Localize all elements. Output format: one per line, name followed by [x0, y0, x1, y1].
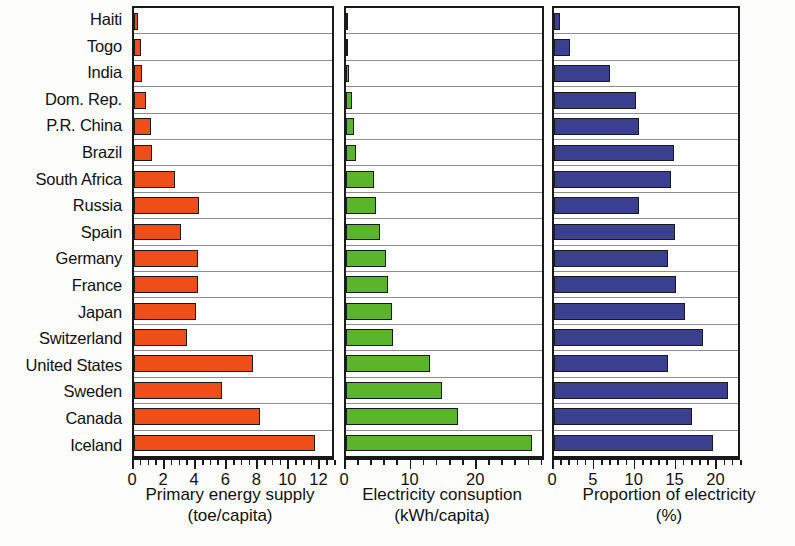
axis-tick-major [715, 460, 717, 469]
axis-tick-minor [210, 460, 212, 465]
axis-tick-minor [202, 460, 204, 465]
axis-tick-minor [724, 460, 726, 465]
axis-tick-major [318, 460, 320, 469]
axis-tick-minor [264, 460, 266, 465]
bar [134, 329, 187, 346]
axis-tick-minor [658, 460, 660, 465]
bar [134, 118, 151, 135]
axis-tick-major [593, 460, 595, 469]
axis-tick-minor [155, 460, 157, 465]
axis-tick-major [410, 460, 412, 469]
axis-tick-minor [140, 460, 142, 465]
multi-panel-bar-chart: HaitiTogoIndiaDom. Rep.P.R. ChinaBrazilS… [0, 0, 795, 546]
panel-proportion-of-electricity [552, 6, 740, 458]
bar [346, 355, 430, 372]
bars-panel-3 [554, 8, 738, 456]
axis-tick-minor [732, 460, 734, 465]
bar-row [346, 140, 542, 166]
bar-row [134, 166, 332, 192]
country-label: Iceland [0, 432, 128, 459]
bar [134, 145, 152, 162]
axis-tick-major [256, 460, 258, 469]
axis-tick-minor [370, 460, 372, 465]
axis-tick-minor [488, 460, 490, 465]
bar [346, 329, 393, 346]
panel-primary-energy-supply [132, 6, 334, 458]
bar [346, 408, 458, 425]
axis-tick-minor [303, 460, 305, 465]
bar-row [554, 430, 738, 456]
country-label: France [0, 272, 128, 299]
axis-tick-minor [650, 460, 652, 465]
axis-tick-minor [541, 460, 543, 465]
axis-tick-minor [691, 460, 693, 465]
bar [346, 65, 349, 82]
axis-tick-minor [217, 460, 219, 465]
bar [134, 435, 315, 452]
axis-tick-major [634, 460, 636, 469]
axis-tick-minor [609, 460, 611, 465]
axis-tick-minor [642, 460, 644, 465]
bar-row [346, 166, 542, 192]
bar-row [346, 377, 542, 403]
axis-tick-minor [179, 460, 181, 465]
bar [134, 382, 222, 399]
axis-tick-minor [295, 460, 297, 465]
axis-tick-minor [699, 460, 701, 465]
axis-tick-minor [383, 460, 385, 465]
country-label: India [0, 59, 128, 86]
axis-tick-minor [626, 460, 628, 465]
axis-tick-minor [249, 460, 251, 465]
bar-row [554, 272, 738, 298]
bar [346, 303, 392, 320]
axis-tick-minor [241, 460, 243, 465]
bar-row [346, 34, 542, 60]
bar-row [346, 245, 542, 271]
bar-row [554, 34, 738, 60]
bars-panel-2 [346, 8, 542, 456]
axis-title-text-1: Primary energy supply [145, 485, 314, 504]
axis-tick-minor [171, 460, 173, 465]
bar [554, 224, 675, 241]
country-label: Japan [0, 299, 128, 326]
axis-tick-minor [148, 460, 150, 465]
axis-tick-major [163, 460, 165, 469]
axis-tick-major [225, 460, 227, 469]
axis-tick-major [552, 460, 554, 469]
axis-tick-minor [436, 460, 438, 465]
country-label: Germany [0, 245, 128, 272]
bar [346, 276, 388, 293]
country-label: Haiti [0, 6, 128, 33]
bar [554, 13, 560, 30]
axis-tick-minor [462, 460, 464, 465]
bar [346, 224, 380, 241]
bar-row [554, 377, 738, 403]
bar [554, 39, 570, 56]
bar [554, 329, 703, 346]
axis-tick-minor [585, 460, 587, 465]
axis-tick-minor [334, 460, 336, 465]
axis-tick-major [132, 460, 134, 469]
axis-tick-minor [560, 460, 562, 465]
bar-row [134, 219, 332, 245]
bar-row [134, 272, 332, 298]
bar [134, 408, 260, 425]
bar [134, 92, 146, 109]
axis-tick-minor [423, 460, 425, 465]
axis-tick-major [287, 460, 289, 469]
bar [134, 39, 141, 56]
axis-unit-text-2: (kWh/capita) [333, 505, 551, 526]
bar [134, 171, 175, 188]
country-label: Spain [0, 219, 128, 246]
bar [346, 39, 348, 56]
bar [554, 355, 668, 372]
bar-row [134, 34, 332, 60]
bar [554, 145, 674, 162]
bar [346, 118, 354, 135]
bar [554, 382, 728, 399]
bar [134, 224, 181, 241]
axis-title-text-2: Electricity consuption [362, 485, 522, 504]
bar-row [346, 87, 542, 113]
bar [346, 13, 348, 30]
axis-tick-minor [683, 460, 685, 465]
